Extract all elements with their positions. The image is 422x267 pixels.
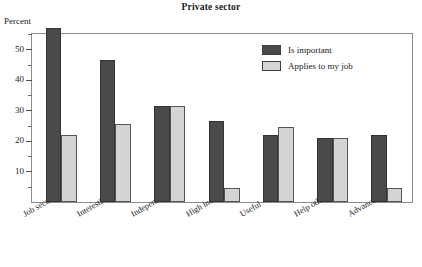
bar-is-important bbox=[154, 106, 170, 202]
bar-applies-to-my-job bbox=[278, 127, 294, 202]
bar-is-important bbox=[317, 138, 333, 202]
bar-applies-to-my-job bbox=[61, 135, 77, 202]
y-axis-tick-label: 20 bbox=[0, 136, 24, 145]
bar-applies-to-my-job bbox=[387, 188, 403, 202]
bar-is-important bbox=[263, 135, 279, 202]
y-axis-tick-label: 50 bbox=[0, 45, 24, 54]
bar-is-important bbox=[46, 28, 62, 202]
legend-swatch-icon-is-important bbox=[262, 45, 281, 55]
y-axis-tick-label: 30 bbox=[0, 106, 24, 115]
chart-legend: Is important Applies to my job bbox=[262, 42, 353, 74]
bar-is-important bbox=[209, 121, 225, 202]
legend-label-applies-to-my-job: Applies to my job bbox=[288, 61, 353, 71]
y-axis-tick-label: 10 bbox=[0, 167, 24, 176]
bar-applies-to-my-job bbox=[115, 124, 131, 202]
legend-label-is-important: Is important bbox=[288, 45, 332, 55]
bar-is-important bbox=[371, 135, 387, 202]
chart-title: Private sector bbox=[0, 2, 422, 12]
bar-is-important bbox=[100, 60, 116, 202]
y-axis-tick-label: 40 bbox=[0, 75, 24, 84]
legend-swatch-icon-applies-to-my-job bbox=[262, 61, 281, 71]
y-axis-label: Percent bbox=[4, 16, 31, 26]
bar-applies-to-my-job bbox=[224, 188, 240, 202]
bar-applies-to-my-job bbox=[170, 106, 186, 202]
legend-item-applies-to-my-job: Applies to my job bbox=[262, 58, 353, 74]
bars-layer bbox=[32, 34, 412, 202]
bar-applies-to-my-job bbox=[333, 138, 349, 202]
legend-item-is-important: Is important bbox=[262, 42, 353, 58]
private-sector-bar-chart: Private sector Percent 1020304050 Job se… bbox=[0, 0, 422, 267]
